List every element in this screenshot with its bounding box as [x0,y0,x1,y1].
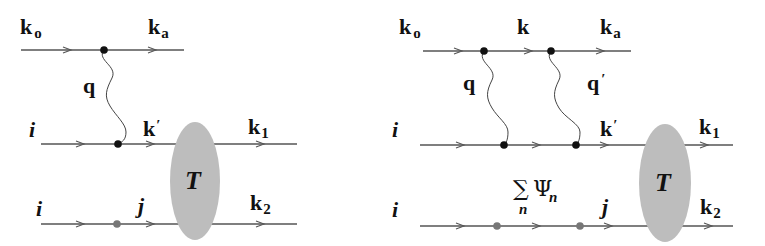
gray-vertex [493,222,501,230]
label-sum: ∑ [513,176,529,201]
vertex [547,47,555,55]
label-i-bottom: i [392,197,399,222]
vertex [500,141,508,149]
vertex [572,141,580,149]
vertex [114,140,122,148]
label-kprime: k′ [600,116,617,141]
label-T: T [185,166,202,195]
label-i-bottom: i [36,196,43,221]
label-psi-sub: n [549,189,557,205]
gray-vertex [576,222,584,230]
label-j: j [599,194,609,219]
gray-vertex [113,220,121,228]
label-i-top: i [392,117,399,142]
label-k0: ko [399,14,421,41]
label-k0: ko [20,14,42,41]
photon-line-qprime [549,51,580,145]
photon-line-q [102,50,126,144]
label-i-top: i [29,117,36,142]
label-k: k [517,14,530,39]
label-kprime: k′ [143,116,160,141]
label-j: j [135,193,145,218]
label-k2: k2 [250,190,271,217]
label-T: T [655,168,672,197]
label-k1: k1 [248,114,269,141]
vertex [100,46,108,54]
feynman-diagrams: ko ka q i k′ k1 T i j k2 [0,0,765,246]
label-qprime: q′ [587,70,605,95]
right-diagram: ko k ka q q′ i k′ k1 T ∑ n Ψ n i j k2 [392,14,733,242]
label-ka: ka [148,14,169,41]
label-ka: ka [600,14,621,41]
label-sum-sub: n [519,201,527,217]
photon-line-q [482,51,508,145]
label-k2: k2 [700,194,721,221]
vertex [480,47,488,55]
left-diagram: ko ka q i k′ k1 T i j k2 [20,14,297,240]
label-q: q [83,73,96,98]
label-q: q [463,70,476,95]
label-k1: k1 [699,114,720,141]
